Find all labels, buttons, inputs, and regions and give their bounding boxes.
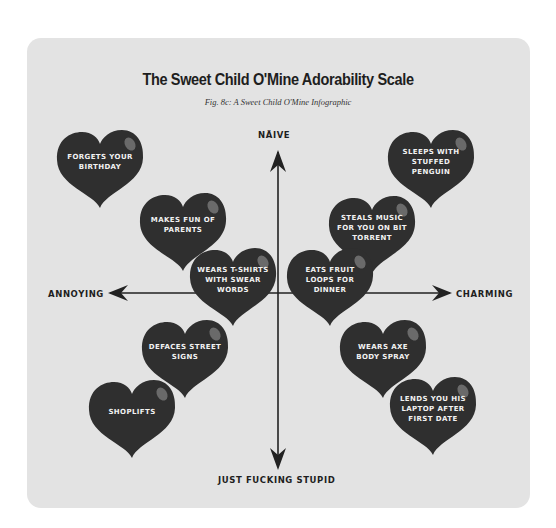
heart-eats-fruit-loops: Eats fruit loops for dinner — [284, 246, 376, 328]
heart-label: Steals music for you on bit torrent — [334, 210, 410, 246]
heart-label: Lends you his laptop after first date — [395, 391, 471, 427]
axis-label-bottom: Just Fucking Stupid — [218, 475, 335, 485]
heart-forgets-birthday: Forgets your birthday — [54, 128, 146, 210]
heart-label: Sleeps with stuffed penguin — [393, 144, 469, 180]
heart-wears-tshirts: Wears T-shirts with swear words — [187, 246, 279, 328]
heart-label: Wears T-shirts with swear words — [195, 262, 271, 298]
heart-shoplifts: Shoplifts — [86, 378, 178, 460]
axis-label-left: Annoying — [48, 289, 104, 299]
heart-label: Defaces street signs — [147, 334, 223, 370]
heart-label: Shoplifts — [94, 394, 170, 430]
axis-label-right: Charming — [456, 289, 513, 299]
heart-label: Eats fruit loops for dinner — [292, 262, 368, 298]
heart-label: Wears axe body spray — [345, 334, 421, 370]
axis-label-top: Näive — [258, 130, 290, 140]
heart-label: Forgets your birthday — [62, 144, 138, 180]
heart-label: Makes fun of parents — [145, 207, 221, 243]
heart-lends-laptop: Lends you his laptop after first date — [387, 375, 479, 457]
